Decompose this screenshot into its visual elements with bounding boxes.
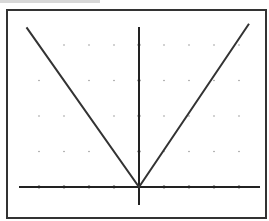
abs-value-curve (27, 24, 250, 187)
graph-plot (0, 0, 269, 221)
